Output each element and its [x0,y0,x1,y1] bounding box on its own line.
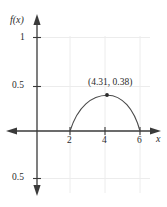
x-axis-label: x [156,134,160,144]
x-tick-label-6: 6 [137,136,142,146]
x-axis-arrow-left [6,127,17,134]
axes [6,14,161,196]
y-tick-label-0point5: 0.5 [12,81,24,91]
y-axis-arrow-down [33,185,40,196]
maximum-point-marker [105,93,109,97]
y-axis-arrow-up [33,14,40,25]
maximum-point-label: (4.31, 0.38) [88,78,132,88]
y-tick-label-1: 1 [20,33,25,43]
plot-canvas [0,0,167,207]
tick-marks [33,38,140,179]
y-axis-label: f(x) [10,15,24,25]
x-tick-label-4: 4 [102,136,107,146]
function-graph-figure: 1 0.5 0.5 2 4 6 f(x) x (4.31, 0.38) [0,0,167,207]
y-tick-label-negative-0point5: 0.5 [12,173,24,183]
x-tick-label-2: 2 [67,136,72,146]
